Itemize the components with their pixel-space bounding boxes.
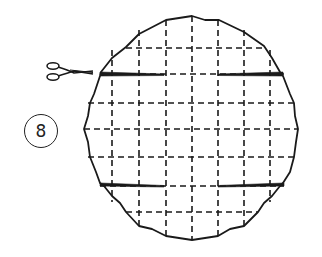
cut-line-upper-left bbox=[100, 72, 164, 76]
folded-paper-diagram bbox=[0, 0, 322, 257]
scissors-icon bbox=[47, 63, 93, 80]
cut-line-lower-right bbox=[218, 183, 284, 187]
paper-outline bbox=[84, 16, 298, 240]
cut-line-upper-right bbox=[218, 72, 283, 76]
cut-line-lower-left bbox=[100, 183, 164, 187]
